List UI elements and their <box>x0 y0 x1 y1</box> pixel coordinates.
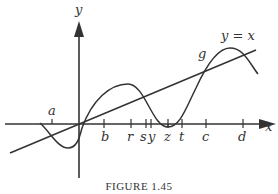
tick-label-r: r <box>127 129 134 144</box>
curve-label-g: g <box>198 46 206 61</box>
tick-label-y: y <box>147 129 156 144</box>
y-axis: y <box>74 2 84 178</box>
tick-label-a: a <box>48 103 56 118</box>
x-axis-label: x <box>265 119 273 134</box>
tick-label-s: s <box>140 129 147 144</box>
tick-label-d: d <box>238 129 246 144</box>
tick-label-c: c <box>202 129 210 144</box>
tick-label-t: t <box>179 129 185 144</box>
identity-line-label: y = x <box>220 28 256 43</box>
tick-label-b: b <box>101 129 109 144</box>
y-axis-label: y <box>74 2 83 17</box>
tick-label-z: z <box>163 129 171 144</box>
y-axis-arrow-icon <box>74 21 84 37</box>
figure-diagram: x y a b r s y z t c d y = x g FIGURE 1.4… <box>0 0 278 194</box>
figure-caption: FIGURE 1.45 <box>105 180 172 192</box>
